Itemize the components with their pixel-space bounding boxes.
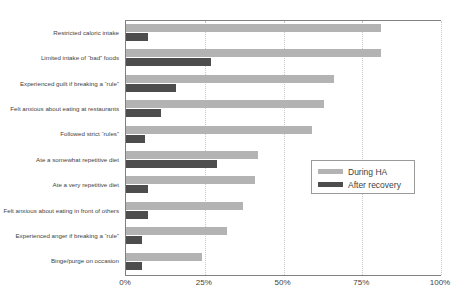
bar-rows xyxy=(126,21,441,275)
bar-after-recovery xyxy=(126,109,161,117)
bar-row xyxy=(126,21,441,46)
x-axis-tick-labels: 0%25%50%75%100% xyxy=(0,278,451,294)
bar-after-recovery xyxy=(126,160,217,168)
category-label: Ate a somewhat repetitive diet xyxy=(0,156,119,163)
chart-legend: During HA After recovery xyxy=(311,160,415,194)
x-tick-label: 0% xyxy=(119,278,131,287)
bar-row xyxy=(126,46,441,71)
plot-area xyxy=(125,20,441,276)
bar-row xyxy=(126,97,441,122)
category-label: Limited intake of “bad” foods xyxy=(0,54,119,61)
bar-during-ha xyxy=(126,227,227,235)
bar-during-ha xyxy=(126,24,381,32)
legend-label-during-ha: During HA xyxy=(348,167,387,177)
bar-after-recovery xyxy=(126,262,142,270)
bar-during-ha xyxy=(126,126,312,134)
x-tick-label: 50% xyxy=(274,278,290,287)
bar-during-ha xyxy=(126,151,258,159)
category-label: Felt anxious about eating at restaurants xyxy=(0,105,119,112)
legend-swatch-during-ha xyxy=(318,169,343,174)
bar-after-recovery xyxy=(126,135,145,143)
bar-after-recovery xyxy=(126,58,211,66)
bar-row xyxy=(126,199,441,224)
bar-row xyxy=(126,123,441,148)
category-label: Followed strict “rules” xyxy=(0,130,119,137)
gridline xyxy=(441,21,442,275)
legend-label-after-recovery: After recovery xyxy=(348,180,401,190)
bar-row xyxy=(126,224,441,249)
bar-after-recovery xyxy=(126,84,176,92)
x-tick-label: 25% xyxy=(196,278,212,287)
bar-during-ha xyxy=(126,75,334,83)
category-label: Restricted caloric intake xyxy=(0,29,119,36)
bar-after-recovery xyxy=(126,185,148,193)
bar-during-ha xyxy=(126,202,243,210)
category-label: Experienced anger if breaking a “rule” xyxy=(0,232,119,239)
bar-during-ha xyxy=(126,100,324,108)
bar-during-ha xyxy=(126,49,381,57)
legend-swatch-after-recovery xyxy=(318,182,343,187)
category-label: Experienced guilt if breaking a “rule” xyxy=(0,80,119,87)
x-tick-label: 75% xyxy=(353,278,369,287)
legend-item-after-recovery: After recovery xyxy=(318,178,401,191)
bar-row xyxy=(126,72,441,97)
category-label: Ate a very repetitive diet xyxy=(0,181,119,188)
bar-during-ha xyxy=(126,176,255,184)
legend-item-during-ha: During HA xyxy=(318,165,387,178)
horizontal-bar-chart: Restricted caloric intakeLimited intake … xyxy=(0,0,451,304)
x-tick-label: 100% xyxy=(430,278,450,287)
category-label: Felt anxious about eating in front of ot… xyxy=(0,207,119,214)
bar-during-ha xyxy=(126,253,202,261)
category-axis-labels: Restricted caloric intakeLimited intake … xyxy=(0,20,122,274)
bar-after-recovery xyxy=(126,33,148,41)
category-label: Binge/purge on occasion xyxy=(0,257,119,264)
bar-after-recovery xyxy=(126,236,142,244)
bar-row xyxy=(126,250,441,275)
bar-after-recovery xyxy=(126,211,148,219)
